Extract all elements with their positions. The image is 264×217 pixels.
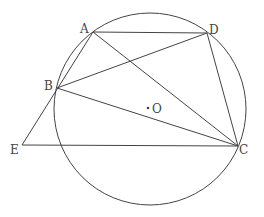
label-O: O [152,102,162,116]
segment-DC [207,33,238,146]
segment-AD [93,32,207,33]
segment-BC [57,88,238,146]
label-C: C [239,143,248,157]
segment-EC [22,145,238,146]
geometry-diagram: A B C D E O [0,0,264,217]
label-B: B [44,79,53,93]
label-E: E [10,143,19,157]
label-D: D [209,23,219,37]
label-A: A [79,22,89,36]
segment-BD [57,33,207,88]
circumcircle [54,13,246,205]
segment-AC [93,32,238,146]
center-point-dot [147,107,150,110]
